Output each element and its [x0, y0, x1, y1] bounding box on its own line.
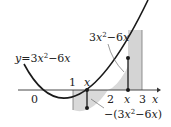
tick-label-3: 3 — [139, 93, 146, 106]
origin-label: 0 — [31, 93, 38, 106]
tick-label-1: 1 — [69, 76, 76, 89]
sample-point-right-curve — [126, 56, 130, 60]
sample-x-label-right: x — [124, 93, 131, 106]
function-label: y=3x2−6x — [14, 52, 71, 65]
x-axis-arrow-icon — [157, 88, 161, 93]
lower-height-label: −(3x2−6x) — [104, 108, 162, 121]
shaded-region-1-to-2 — [73, 90, 108, 111]
sample-point-right-axis — [126, 88, 130, 92]
sample-point-left-curve — [85, 106, 89, 110]
sample-x-label-left: x — [84, 76, 91, 89]
function-area-diagram: y=3x2−6x 3x2−6x −(3x2−6x) 0 1 2 3 x x x — [0, 0, 171, 127]
tick-label-2: 2 — [107, 93, 114, 106]
x-axis-label: x — [152, 93, 159, 106]
graph-svg: y=3x2−6x 3x2−6x −(3x2−6x) 0 1 2 3 x x x — [0, 0, 171, 127]
upper-height-label: 3x2−6x — [89, 31, 130, 44]
shaded-strip-near-3 — [128, 30, 142, 90]
